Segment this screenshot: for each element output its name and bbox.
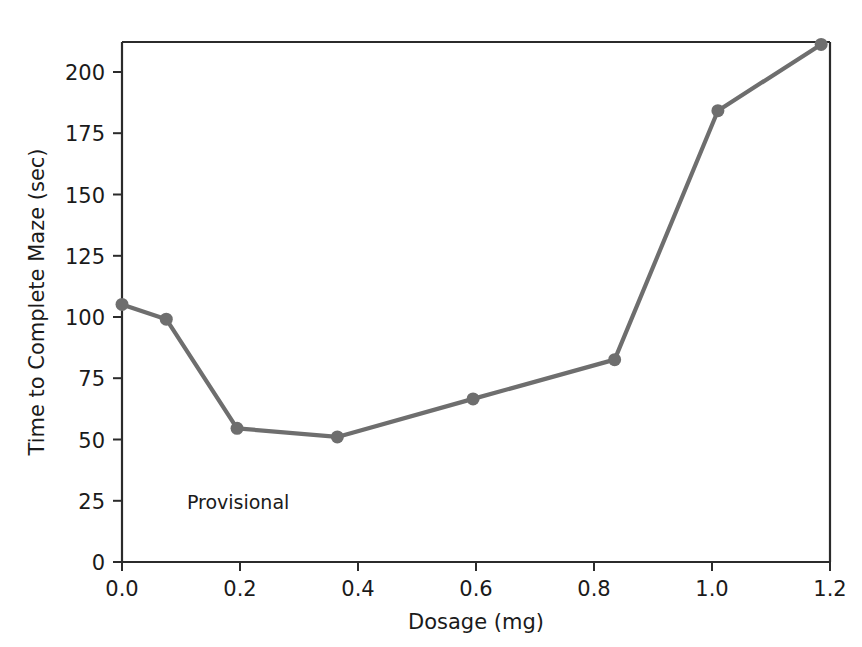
- data-point-marker: [608, 353, 621, 366]
- data-point-marker: [116, 298, 129, 311]
- data-point-marker: [711, 104, 724, 117]
- x-tick-label: 1.0: [695, 577, 728, 601]
- data-point-marker: [331, 430, 344, 443]
- y-tick-label: 175: [65, 122, 105, 146]
- x-tick-label: 0.8: [577, 577, 610, 601]
- y-tick-label: 75: [78, 367, 105, 391]
- line-chart: 0 25 50 75 100 125 150 175 200 0.0 0.2: [0, 0, 862, 647]
- x-tick-label: 0.2: [223, 577, 256, 601]
- y-tick-label: 50: [78, 429, 105, 453]
- data-point-marker: [467, 392, 480, 405]
- x-tick-label: 0.6: [459, 577, 492, 601]
- y-tick-label: 200: [65, 61, 105, 85]
- chart-annotation: Provisional: [187, 491, 289, 513]
- y-tick-label: 100: [65, 306, 105, 330]
- chart-figure: 0 25 50 75 100 125 150 175 200 0.0 0.2: [0, 0, 862, 647]
- data-point-marker: [160, 313, 173, 326]
- x-axis-ticks: 0.0 0.2 0.4 0.6 0.8 1.0 1.2: [105, 562, 846, 601]
- y-tick-label: 25: [78, 490, 105, 514]
- x-tick-label: 1.2: [813, 577, 846, 601]
- y-axis-title: Time to Complete Maze (sec): [25, 148, 49, 456]
- data-point-marker: [815, 38, 828, 51]
- plot-area-background: [122, 42, 830, 562]
- x-tick-label: 0.0: [105, 577, 138, 601]
- x-tick-label: 0.4: [341, 577, 374, 601]
- data-point-marker: [231, 422, 244, 435]
- x-axis-title: Dosage (mg): [408, 610, 544, 634]
- y-tick-label: 0: [92, 551, 105, 575]
- y-tick-label: 125: [65, 245, 105, 269]
- y-axis-ticks: 0 25 50 75 100 125 150 175 200: [65, 61, 122, 575]
- y-tick-label: 150: [65, 184, 105, 208]
